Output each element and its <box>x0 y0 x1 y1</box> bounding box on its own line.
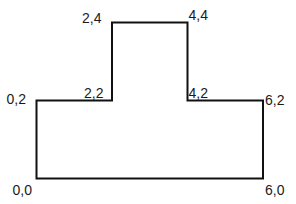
t-shape-diagram: 0,06,06,24,24,42,42,20,2 <box>0 0 296 204</box>
vertex-label: 0,2 <box>7 91 27 107</box>
vertex-label: 6,2 <box>265 92 285 108</box>
vertex-label: 4,4 <box>189 7 209 23</box>
vertex-label: 6,0 <box>265 182 285 198</box>
vertex-label: 2,2 <box>84 85 104 101</box>
t-shape-outline <box>37 23 264 179</box>
vertex-label: 4,2 <box>189 85 209 101</box>
vertex-label: 0,0 <box>13 182 33 198</box>
vertex-label: 2,4 <box>82 10 102 26</box>
